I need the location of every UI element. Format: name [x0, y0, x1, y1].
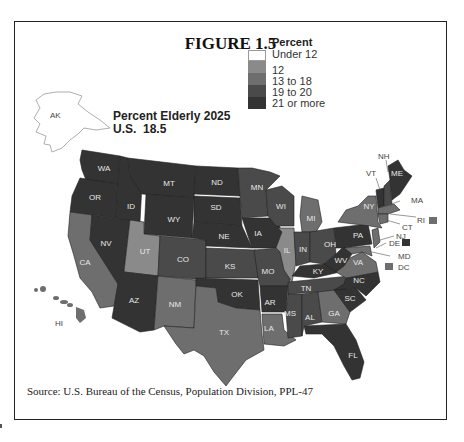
state-AK: [34, 92, 110, 152]
label-WV: WV: [335, 256, 349, 265]
state-ME: [388, 160, 412, 200]
label-HI: HI: [55, 319, 63, 328]
label-MA: MA: [411, 196, 424, 205]
label-TN: TN: [301, 284, 312, 293]
label-WI: WI: [276, 202, 286, 211]
label-KS: KS: [225, 262, 236, 271]
state-VT: [376, 188, 384, 208]
label-FL: FL: [348, 351, 358, 360]
label-OK: OK: [231, 290, 243, 299]
label-NE: NE: [218, 232, 229, 241]
legend-heading: Percent: [272, 36, 312, 48]
label-DE: DE: [389, 239, 400, 248]
label-AL: AL: [305, 313, 315, 322]
legend: Percent Under 12 12 13 to 18 19 to 20 21…: [248, 36, 368, 108]
legend-labels: Under 12 12 13 to 18 19 to 20 21 or more: [272, 49, 325, 109]
label-IA: IA: [254, 229, 262, 238]
label-DC: DC: [398, 263, 410, 272]
label-AZ: AZ: [129, 296, 139, 305]
legend-swatch-under-12: [248, 50, 266, 61]
label-VT: VT: [366, 169, 376, 178]
label-UT: UT: [140, 247, 151, 256]
label-IL: IL: [284, 246, 291, 255]
state-NY: [338, 196, 382, 228]
label-CO: CO: [177, 255, 189, 264]
label-MT: MT: [163, 179, 175, 188]
label-SC: SC: [344, 294, 355, 303]
label-WA: WA: [98, 164, 111, 173]
label-ME: ME: [391, 169, 403, 178]
label-CT: CT: [402, 223, 413, 232]
label-NV: NV: [100, 239, 112, 248]
label-MI: MI: [307, 214, 316, 223]
state-HI: [34, 286, 86, 323]
swatch-RI: [429, 217, 437, 224]
label-VA: VA: [353, 258, 364, 267]
label-GA: GA: [328, 309, 340, 318]
legend-swatch-12: [248, 61, 266, 73]
label-NM: NM: [169, 300, 182, 309]
label-RI: RI: [417, 216, 425, 225]
us-average: U.S. 18.5: [113, 123, 230, 136]
legend-swatches: [248, 50, 266, 109]
label-MO: MO: [262, 267, 275, 276]
label-NC: NC: [353, 276, 365, 285]
label-WY: WY: [168, 215, 182, 224]
label-MD: MD: [398, 252, 411, 261]
label-LA: LA: [264, 324, 274, 333]
label-CA: CA: [79, 258, 91, 267]
source-note: Source: U.S. Bureau of the Census, Popul…: [27, 385, 313, 397]
state-CT: [378, 214, 388, 224]
legend-swatch-13-to-18: [248, 73, 266, 85]
legend-swatch-19-to-20: [248, 85, 266, 97]
label-OR: OR: [89, 193, 101, 202]
label-MN: MN: [251, 183, 264, 192]
label-ND: ND: [211, 178, 223, 187]
legend-label: Under 12: [272, 49, 325, 60]
us-choropleth-map: AK HI WA OR CA NV ID MT WY UT AZ CO NM N…: [0, 0, 464, 442]
label-AK: AK: [50, 111, 61, 120]
label-IN: IN: [299, 245, 307, 254]
label-NH: NH: [378, 152, 390, 161]
label-AR: AR: [264, 298, 275, 307]
label-KY: KY: [313, 267, 324, 276]
label-OH: OH: [324, 240, 336, 249]
map-subtitle: Percent Elderly 2025 U.S. 18.5: [113, 110, 230, 136]
label-PA: PA: [353, 231, 364, 240]
legend-swatch-21-or-more: [248, 97, 266, 109]
label-TX: TX: [219, 328, 230, 337]
stray-mark: [0, 424, 2, 428]
legend-label: 21 or more: [272, 98, 325, 109]
label-ID: ID: [127, 202, 135, 211]
state-NJ: [372, 228, 380, 248]
swatch-DC: [385, 263, 393, 270]
label-NY: NY: [363, 202, 375, 211]
label-MS: MS: [284, 309, 296, 318]
label-SD: SD: [210, 203, 221, 212]
